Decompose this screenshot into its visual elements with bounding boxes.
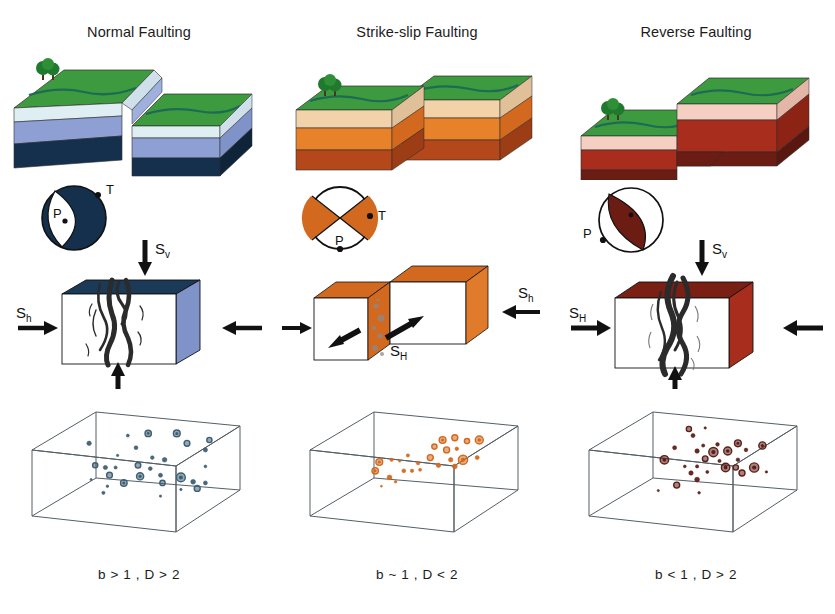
seismicity-point (406, 454, 409, 457)
seismicity-point (698, 492, 701, 495)
label-sH-reverse: S (569, 304, 579, 321)
label-sv-normal: S (155, 240, 165, 257)
block-diagram-strike (282, 48, 552, 178)
beachball-label-t-normal: T (106, 182, 114, 197)
seismicity-points-strike (372, 435, 483, 487)
seismicity-point-core (139, 475, 142, 478)
seismicity-point (394, 481, 397, 484)
seismicity-point (402, 469, 406, 473)
seismicity-point (203, 481, 207, 485)
seismicity-point (702, 456, 708, 462)
seismicity-point (103, 465, 107, 469)
seismicity-point (134, 446, 138, 450)
arrow-sH-right-reverse (783, 320, 823, 336)
seismicity-point (114, 466, 117, 469)
seismicity-point (455, 447, 459, 451)
seismicity-point (87, 441, 91, 445)
seismicity-point (203, 448, 207, 452)
label-sv-reverse: S (712, 240, 722, 257)
seismicity-point (744, 448, 748, 452)
seismicity-point (736, 458, 740, 462)
seismicity-point-core (378, 461, 381, 464)
seismicity-point-core (711, 450, 715, 454)
near-block-strike (296, 74, 424, 170)
seismicity-point (148, 467, 152, 471)
seismicity-cube-normal (0, 392, 278, 562)
seismicity-point (695, 449, 699, 453)
seismicity-point (674, 482, 680, 488)
seismicity-point (419, 468, 422, 471)
seismicity-point (399, 460, 401, 462)
seismicity-points-normal (87, 430, 212, 497)
arrow-sh-right-strike (502, 305, 540, 319)
seismicity-point (191, 479, 196, 484)
arrow-sv-reverse (695, 240, 709, 276)
seismicity-point (733, 465, 738, 470)
hangingwall-block-normal (132, 94, 252, 176)
column-reverse-faulting: Reverse Faulting (557, 0, 835, 614)
block-diagram-reverse (561, 48, 835, 180)
seismicity-point (452, 435, 458, 441)
seismicity-point (691, 434, 695, 438)
seismicity-point (657, 490, 659, 492)
beachball-label-t-strike: T (378, 208, 386, 223)
seismicity-point (444, 447, 450, 453)
seismicity-point (765, 471, 767, 473)
label-sh-sub-normal: h (26, 313, 32, 324)
seismicity-point (673, 446, 677, 450)
seismicity-point-core (663, 458, 667, 462)
label-sh-strike: S (518, 284, 528, 301)
seismicity-point (718, 459, 721, 462)
seismicity-point-core (724, 466, 728, 470)
seismicity-point-core (179, 475, 183, 479)
seismicity-point (160, 480, 165, 485)
seismicity-point (116, 454, 118, 456)
seismicity-point (716, 443, 720, 447)
arrow-sH-left-reverse (571, 320, 611, 336)
label-sH-sub-strike: H (400, 351, 407, 362)
seismicity-point (432, 444, 437, 449)
seismicity-point-core (752, 465, 756, 469)
seismicity-point (683, 465, 686, 468)
seismicity-points-reverse (657, 426, 767, 494)
seismicity-point (159, 495, 161, 497)
fault-mechanics-figure: Normal Faulting (0, 0, 835, 614)
seismicity-point (93, 463, 98, 468)
seismicity-point (449, 458, 453, 462)
seismicity-point (106, 485, 109, 488)
seismicity-point (102, 491, 105, 494)
stress-block-reverse: S v S H (557, 232, 835, 392)
arrow-sh-right-normal (222, 321, 262, 335)
seismicity-point (416, 461, 420, 465)
seismicity-point (180, 488, 182, 490)
seismicity-point-core (726, 449, 730, 453)
stress-block-strike: S H S h (278, 232, 556, 392)
seismicity-point (387, 475, 392, 480)
seismicity-point (90, 479, 92, 481)
seismicity-point (151, 456, 155, 460)
seismicity-point-core (478, 438, 482, 442)
arrow-link-normal (111, 362, 125, 389)
title-reverse-faulting: Reverse Faulting (557, 24, 835, 40)
label-sh-sub-strike: h (528, 293, 534, 304)
seismicity-point (464, 439, 469, 444)
seismicity-point (380, 485, 382, 487)
label-sH-strike: S (390, 342, 400, 359)
seismicity-point (696, 465, 699, 468)
seismicity-point (390, 458, 393, 461)
seismicity-point (184, 440, 190, 446)
label-sv-sub-reverse: v (722, 249, 727, 260)
seismicity-point-core (147, 432, 150, 435)
seismicity-point-core (122, 481, 125, 484)
caption-strike: b ~ 1 , D < 2 (278, 567, 556, 582)
block-diagram-normal (4, 48, 274, 178)
seismicity-point (704, 427, 706, 429)
column-normal-faulting: Normal Faulting (0, 0, 278, 614)
seismicity-cube-strike (278, 392, 556, 562)
caption-normal: b > 1 , D > 2 (0, 567, 278, 582)
seismicity-point (204, 465, 207, 468)
seismicity-point (126, 434, 129, 437)
hangingwall-block-reverse (677, 78, 809, 166)
caption-reverse: b < 1 , D > 2 (557, 567, 835, 582)
cube-wireframe-strike (310, 412, 518, 532)
